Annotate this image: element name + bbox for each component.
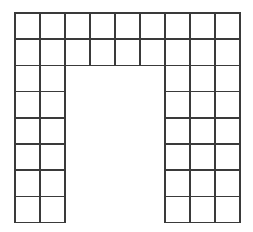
grid-cell [15,170,40,196]
grid-cell [115,13,140,39]
grid-cell [15,39,40,65]
grid-cell [40,170,65,196]
grid-cell [165,92,190,118]
grid-cell [165,144,190,170]
grid-cell [190,144,215,170]
grid-cell [215,39,240,65]
grid-cell [115,39,140,65]
grid-cell [190,92,215,118]
grid-cell [15,196,40,222]
grid-cell [190,196,215,222]
grid-cell [215,196,240,222]
grid-cell [215,170,240,196]
grid-cell [140,13,165,39]
grid-cell [215,13,240,39]
grid-cell [215,144,240,170]
grid-cell [15,118,40,144]
grid-cell [65,39,90,65]
grid-cell [40,196,65,222]
grid-cell [190,65,215,91]
grid-cell [165,65,190,91]
grid-cell [15,13,40,39]
grid-cell [215,65,240,91]
figure-canvas [0,0,253,232]
grid-cell [165,196,190,222]
grid-cell [215,118,240,144]
grid-cell [40,118,65,144]
grid-cell [140,39,165,65]
grid-cell [165,13,190,39]
grid-cell [40,65,65,91]
grid-cell [40,39,65,65]
grid-cell [40,13,65,39]
grid-cells [15,13,240,223]
grid-cell [90,13,115,39]
grid-cell [15,92,40,118]
grid-cell [40,144,65,170]
grid-figure-svg [0,0,253,232]
grid-cell [165,118,190,144]
grid-cell [40,92,65,118]
grid-cell [165,39,190,65]
grid-cell [15,144,40,170]
grid-cell [190,13,215,39]
grid-cell [190,170,215,196]
grid-cell [190,118,215,144]
grid-cell [215,92,240,118]
grid-cell [65,13,90,39]
grid-cell [90,39,115,65]
grid-cell [15,65,40,91]
grid-cell [165,170,190,196]
grid-cell [190,39,215,65]
grid-figure [0,0,253,232]
